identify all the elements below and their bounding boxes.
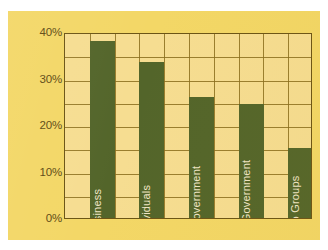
- plot-area: BusinessIndividualsState GovernmentFeder…: [64, 33, 312, 219]
- y-axis-tick-label: 10%: [22, 167, 62, 179]
- chart-panel: 0%10%20%30%40% BusinessIndividualsState …: [8, 11, 320, 240]
- bar-category-label: Business: [92, 189, 103, 218]
- plot-inner: BusinessIndividualsState GovernmentFeder…: [65, 34, 311, 218]
- y-axis-tick-labels: 0%10%20%30%40%: [22, 33, 62, 219]
- y-axis-tick-label: 40%: [22, 27, 62, 39]
- gridline-vertical: [115, 34, 116, 218]
- bar-category-label: Enviro Groups: [290, 176, 301, 218]
- bar: Business: [90, 41, 115, 218]
- gridline-vertical: [164, 34, 165, 218]
- gridline-vertical: [214, 34, 215, 218]
- bar: State Government: [189, 97, 214, 218]
- bar: Federal Government: [239, 104, 264, 218]
- bar-category-label: Federal Government: [241, 160, 252, 218]
- y-axis-tick-label: 30%: [22, 74, 62, 86]
- bar-category-label: Individuals: [141, 185, 152, 218]
- chart-screenshot: 0%10%20%30%40% BusinessIndividualsState …: [0, 0, 328, 250]
- y-axis-tick-label: 20%: [22, 120, 62, 132]
- bar: Enviro Groups: [288, 148, 311, 218]
- y-axis-tick-label: 0%: [22, 213, 62, 225]
- bar: Individuals: [139, 62, 164, 218]
- bar-category-label: State Government: [191, 166, 202, 218]
